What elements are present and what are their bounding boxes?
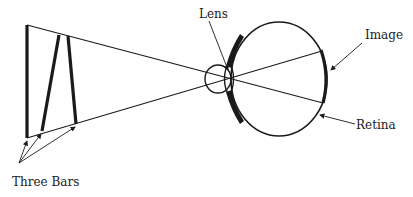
image-arrow bbox=[331, 43, 362, 70]
retina-label: Retina bbox=[356, 118, 396, 132]
lens-leader bbox=[209, 21, 228, 70]
retinal-image-arc bbox=[321, 50, 326, 103]
lens-group bbox=[205, 65, 234, 93]
iris-lower bbox=[226, 90, 244, 124]
lens-label: Lens bbox=[199, 7, 228, 21]
three-bars-arrow-1 bbox=[19, 141, 27, 163]
bar-2 bbox=[42, 35, 59, 131]
three-bars-label: Three Bars bbox=[12, 175, 79, 189]
eye-optics-diagram: Lens Image Retina Three Bars bbox=[0, 0, 413, 197]
bar-3 bbox=[68, 36, 76, 124]
retina-arrow bbox=[320, 115, 355, 124]
three-bars-arrow-2 bbox=[19, 134, 41, 163]
eyeball-outline bbox=[231, 22, 327, 136]
three-bars-group bbox=[27, 25, 76, 138]
iris-upper bbox=[226, 34, 244, 68]
eyeball bbox=[231, 22, 327, 136]
image-label: Image bbox=[365, 28, 403, 42]
leader-lines bbox=[19, 21, 362, 163]
